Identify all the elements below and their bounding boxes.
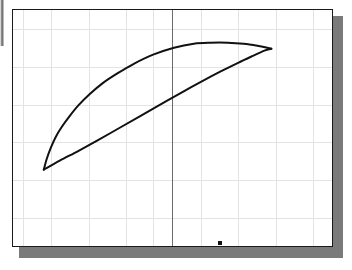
screenshot-root — [0, 0, 352, 270]
plot-panel — [12, 9, 333, 247]
dot-marker — [218, 241, 222, 245]
page-edge-strip — [0, 0, 4, 46]
curve-layer — [13, 10, 332, 246]
curve-lower-chord — [44, 49, 272, 170]
